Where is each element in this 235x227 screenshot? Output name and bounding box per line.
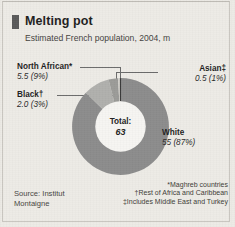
callout-black-value: 2.0 (3%) [17,100,48,110]
callout-asian-label: Asian‡ [160,64,226,74]
callout-north-african-label: North African* [17,62,72,72]
callout-north-african: North African* 5.5 (9%) [17,62,72,82]
callout-asian-value: 0.5 (1%) [160,74,226,84]
footnote-3: ‡Includes Middle East and Turkey [123,198,228,206]
chart-card: Melting pot Estimated French population,… [0,0,235,227]
callout-asian: Asian‡ 0.5 (1%) [160,64,226,84]
page-title: Melting pot [25,14,93,28]
leader-line-asian [116,72,158,73]
callout-white-value: 55 (87%) [162,138,195,148]
donut-chart-svg [69,75,172,178]
title-marker-icon [12,15,19,29]
callout-black: Black† 2.0 (3%) [17,90,48,110]
callout-north-african-value: 5.5 (9%) [17,72,72,82]
leader-line-north-african [80,67,121,68]
donut-chart: Total: 63 [69,75,172,178]
donut-hole [95,101,145,151]
footnotes: *Maghreb countries †Rest of Africa and C… [123,181,228,206]
footnote-1: *Maghreb countries [123,181,228,189]
page-subtitle: Estimated French population, 2004, m [25,33,170,43]
footnote-2: †Rest of Africa and Caribbean [123,189,228,197]
callout-white: White 55 (87%) [162,128,195,148]
callout-black-label: Black† [17,90,48,100]
source-note: Source: Institut Montaigne [14,189,94,208]
callout-white-label: White [162,128,195,138]
